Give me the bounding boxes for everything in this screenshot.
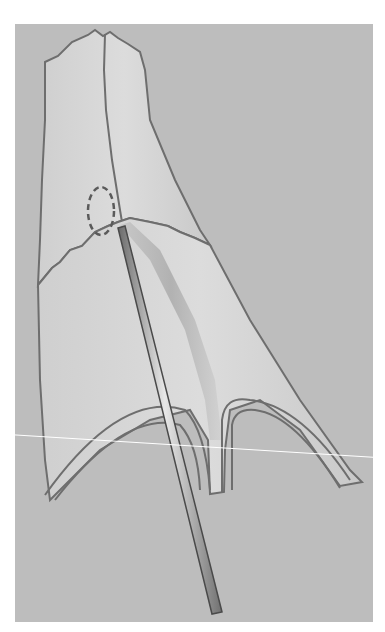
anatomical-illustration <box>0 0 385 632</box>
